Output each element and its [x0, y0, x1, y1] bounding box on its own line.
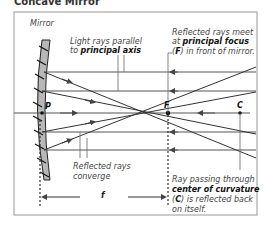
point-f-label: F [164, 101, 169, 110]
curvature-label-2: center of curvature [172, 185, 260, 195]
converge-label-2: converge [73, 172, 110, 182]
focus-label-3: (F) in front of mirror. [172, 47, 255, 57]
point-c-label: C [237, 101, 243, 110]
parallel-rays-label-2: to principal axis [70, 46, 141, 56]
mirror-label: Mirror [30, 19, 54, 29]
curvature-label-3: (C) is reflected back [172, 195, 253, 205]
point-p-label: P [45, 102, 51, 111]
focal-length-label: f [101, 191, 104, 200]
curvature-label-4: on itself. [172, 205, 206, 215]
curvature-label-1: Ray passing through [172, 175, 255, 185]
focus-label-2: at principal focus [172, 37, 249, 47]
converge-label-1: Reflected rays [73, 162, 131, 172]
